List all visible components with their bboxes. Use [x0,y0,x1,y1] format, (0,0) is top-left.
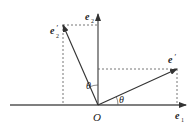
e1prime-vector-arrow [98,69,177,105]
angle-arc-lower [116,97,118,105]
rotation-diagram: O θ θ e 1 e 2 e ′ e ′ 2 [0,0,194,125]
theta-upper-label: θ [86,80,91,91]
svg-text:′: ′ [56,24,58,33]
svg-text:e: e [175,110,180,121]
e1prime-label: e ′ [168,53,176,65]
svg-text:′: ′ [174,53,176,62]
origin-label: O [93,111,101,123]
svg-text:e: e [168,54,173,65]
svg-text:e: e [85,11,90,22]
e1-label: e 1 [175,110,184,123]
e2prime-label: e ′ 2 [50,24,59,39]
theta-lower-label: θ [119,94,124,105]
svg-text:1: 1 [181,117,184,123]
angle-arc-upper [90,85,98,87]
e2prime-vector-arrow [63,25,98,105]
svg-text:e: e [50,25,55,36]
svg-text:2: 2 [91,18,94,24]
svg-text:2: 2 [56,33,59,39]
e2-label: e 2 [85,11,94,24]
